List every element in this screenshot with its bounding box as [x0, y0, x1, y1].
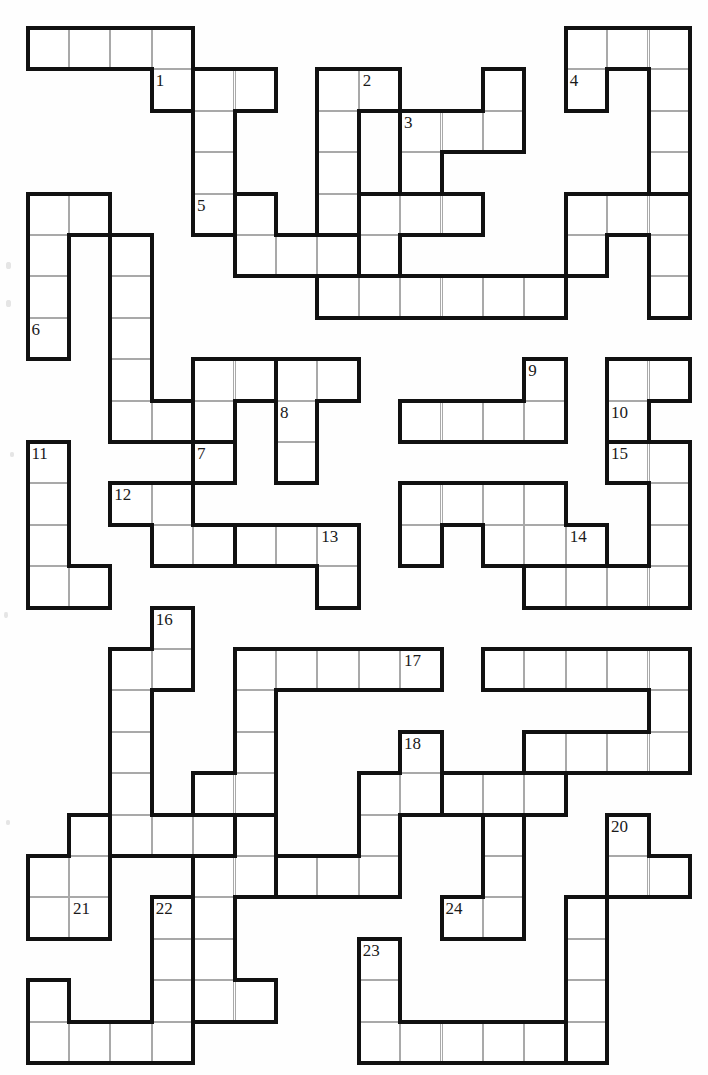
piece-border: [564, 771, 568, 816]
scan-artifact: [10, 452, 14, 457]
puzzle-cell[interactable]: [483, 773, 524, 814]
puzzle-piece[interactable]: [0, 0, 708, 1075]
puzzle-board: 123456789101112131415161718192021222324: [0, 0, 708, 1075]
piece-border: [440, 813, 485, 817]
piece-border: [481, 813, 526, 817]
piece-border: [522, 771, 567, 775]
scan-artifact: [6, 262, 11, 269]
scan-artifact: [6, 820, 10, 825]
piece-border: [481, 771, 526, 775]
piece-border: [440, 771, 485, 775]
scan-artifact: [4, 612, 8, 618]
scan-artifact: [6, 300, 11, 307]
puzzle-cell[interactable]: [524, 773, 565, 814]
piece-border: [522, 813, 567, 817]
piece-border: [440, 771, 444, 816]
puzzle-cell[interactable]: [442, 773, 483, 814]
